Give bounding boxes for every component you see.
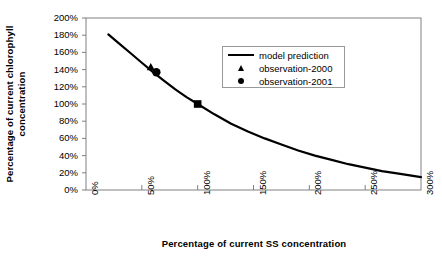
chart-figure: Percentage of current chlorophyll concen…	[0, 0, 442, 265]
legend-triangle-icon	[223, 65, 259, 71]
observation-baseline-marker	[194, 100, 202, 108]
x-tick-label: 300%	[425, 171, 435, 195]
x-tick-label: 50%	[146, 176, 156, 195]
y-tick-label: 100%	[34, 99, 78, 109]
y-axis-title-line1: Percentage of current chlorophyll	[4, 26, 15, 183]
y-tick-label: 200%	[34, 13, 78, 23]
legend-label: model prediction	[259, 50, 329, 61]
legend-line-icon	[223, 54, 259, 56]
legend-item-observation-2001: observation-2001	[223, 74, 344, 88]
y-tick-label: 120%	[34, 82, 78, 92]
observation-2001-marker	[152, 68, 160, 76]
x-tick-label: 200%	[313, 171, 323, 195]
chart-legend: model prediction observation-2000 observ…	[222, 46, 345, 88]
legend-item-observation-2000: observation-2000	[223, 61, 344, 75]
x-tick-label: 250%	[369, 171, 379, 195]
x-tick-label: 0%	[90, 181, 100, 195]
y-tick-label: 80%	[34, 116, 78, 126]
legend-label: observation-2001	[259, 76, 332, 87]
y-axis-tick-marks	[82, 18, 86, 190]
y-tick-label: 20%	[34, 168, 78, 178]
x-tick-label: 150%	[258, 171, 268, 195]
y-tick-label: 0%	[34, 185, 78, 195]
y-axis-title: Percentage of current chlorophyll concen…	[4, 4, 28, 204]
plot-frame	[86, 18, 421, 190]
y-tick-label: 160%	[34, 47, 78, 57]
legend-circle-icon	[223, 78, 259, 84]
x-tick-label: 100%	[202, 171, 212, 195]
legend-label: observation-2000	[259, 63, 332, 74]
y-axis-title-line2: concentration	[16, 72, 27, 137]
y-tick-label: 40%	[34, 151, 78, 161]
y-tick-label: 60%	[34, 133, 78, 143]
legend-item-model-prediction: model prediction	[223, 48, 344, 62]
x-axis-title: Percentage of current SS concentration	[86, 238, 422, 249]
y-tick-label: 180%	[34, 30, 78, 40]
y-tick-label: 140%	[34, 65, 78, 75]
